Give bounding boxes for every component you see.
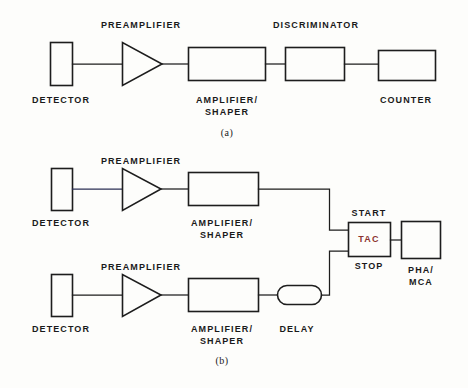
label-amplifier-shaper-b-bottom-line1: AMPLIFIER/: [191, 324, 253, 335]
label-amplifier-shaper-b-top-line2: SHAPER: [200, 230, 244, 241]
amplifier-shaper-box-b-top: [189, 173, 259, 206]
label-detector-a: DETECTOR: [32, 95, 90, 106]
label-pha-mca-line2: MCA: [409, 277, 433, 288]
caption-a: (a): [221, 127, 234, 138]
caption-b: (b): [215, 355, 228, 366]
label-preamplifier-b-bottom: PREAMPLIFIER: [101, 262, 181, 273]
preamplifier-triangle-b-bottom: [123, 275, 162, 317]
label-amplifier-shaper-b-top-line1: AMPLIFIER/: [191, 218, 253, 229]
pha-mca-box: [402, 222, 441, 259]
amplifier-shaper-box-b-bottom: [189, 279, 259, 312]
label-delay-b: DELAY: [279, 324, 314, 335]
label-amplifier-shaper-a-line1: AMPLIFIER/: [196, 95, 258, 106]
diagram-a-group: [51, 43, 436, 86]
discriminator-box-a: [286, 48, 345, 81]
preamplifier-triangle-b-top: [123, 169, 162, 211]
detector-box-b-top: [52, 169, 73, 211]
label-preamplifier-b-top: PREAMPLIFIER: [101, 156, 181, 167]
figure-canvas: PREAMPLIFIER DISCRIMINATOR DETECTOR AMPL…: [0, 0, 468, 388]
label-discriminator-a: DISCRIMINATOR: [273, 20, 359, 31]
label-amplifier-shaper-a-line2: SHAPER: [205, 107, 249, 118]
label-detector-b-top: DETECTOR: [32, 218, 90, 229]
label-stop-b: STOP: [355, 261, 384, 272]
counter-box-a: [379, 51, 436, 81]
detector-box-b-bottom: [52, 275, 73, 317]
amplifier-shaper-box-a: [189, 48, 266, 81]
label-counter-a: COUNTER: [380, 95, 432, 106]
label-amplifier-shaper-b-bottom-line2: SHAPER: [200, 336, 244, 347]
preamplifier-triangle-a: [123, 43, 163, 86]
label-start-b: START: [352, 208, 387, 219]
label-tac-b: TAC: [358, 234, 380, 245]
detector-box-a: [51, 43, 73, 86]
delay-stadium-b: [278, 286, 322, 305]
label-detector-b-bottom: DETECTOR: [32, 324, 90, 335]
diagram-b-bottom-branch-group: [52, 251, 349, 317]
wire-amp-top-to-tac-start: [259, 189, 349, 230]
label-preamplifier-a: PREAMPLIFIER: [101, 20, 181, 31]
label-pha-mca-line1: PHA/: [408, 265, 434, 276]
wire-delay-to-tac-stop: [322, 251, 349, 295]
